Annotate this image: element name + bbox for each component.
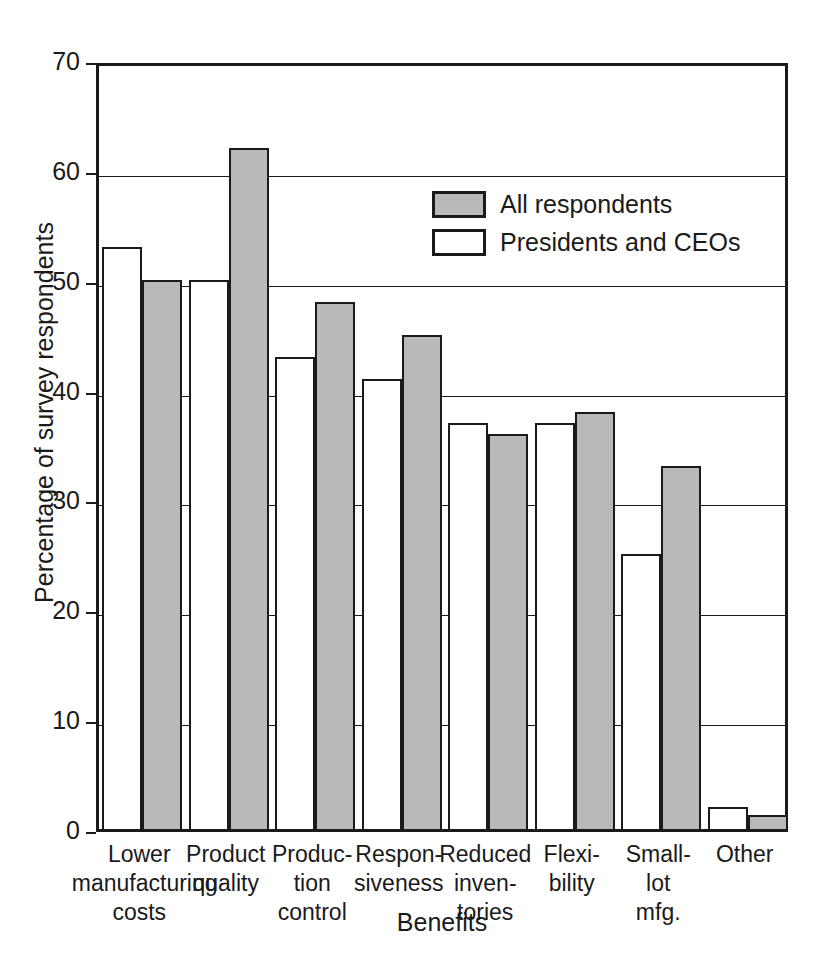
bar [402,335,442,829]
y-axis-tick-mark [86,832,96,834]
bar [575,412,615,829]
y-axis-tick-label: 20 [30,596,80,625]
bar [708,807,748,829]
legend-item-all-respondents: All respondents [432,186,732,222]
bar [748,815,788,829]
bar [621,554,661,829]
y-axis-tick-mark [86,283,96,285]
y-axis-tick-mark [86,612,96,614]
bar [448,423,488,829]
x-axis-category-label: Other [677,840,812,869]
legend-item-presidents-and-ceos: Presidents and CEOs [432,224,732,260]
y-axis-tick-label: 30 [30,486,80,515]
bar [229,148,269,829]
y-axis-tick-label: 40 [30,377,80,406]
y-axis-tick-label: 10 [30,706,80,735]
y-axis-tick-mark [86,173,96,175]
y-axis-tick-mark [86,63,96,65]
bar [362,379,402,829]
legend-item-label: Presidents and CEOs [500,228,740,257]
bar-series-container [99,66,785,829]
legend: All respondents Presidents and CEOs [432,186,732,262]
legend-swatch-icon [432,191,486,218]
bar [488,434,528,829]
y-axis-tick-label: 60 [30,157,80,186]
legend-item-label: All respondents [500,190,672,219]
bar [275,357,315,829]
bar [535,423,575,829]
y-axis-tick-label: 70 [30,47,80,76]
plot-area [96,63,788,832]
bar [661,466,701,829]
y-axis-title: Percentage of survey respondents [30,153,59,673]
bar-chart-figure: Percentage of survey respondents 0102030… [0,0,838,974]
y-axis-tick-mark [86,722,96,724]
bar [102,247,142,829]
legend-swatch-icon [432,229,486,256]
y-axis-tick-mark [86,393,96,395]
y-axis-tick-mark [86,502,96,504]
bar [315,302,355,829]
bar [142,280,182,829]
y-axis-tick-label: 50 [30,267,80,296]
x-axis-title: Benefits [96,908,788,937]
bar [189,280,229,829]
